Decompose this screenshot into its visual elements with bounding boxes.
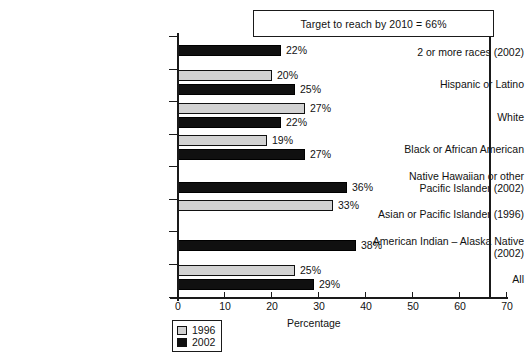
category-label-line: All [360,274,524,286]
bar-chart: Target to reach by 2010 = 66% 2 or more … [0,0,532,361]
category-label-line: Pacific Islander (2002) [360,183,524,195]
bar-value-label: 22% [286,117,307,128]
y-axis-tick [169,166,177,167]
category-label-line: American Indian – Alaska Native [360,236,524,248]
bar-2002-black-or-african-american [178,149,305,160]
x-axis-tick-label: 30 [304,300,334,312]
bar-value-label: 33% [338,200,359,211]
bar-value-label: 20% [277,70,298,81]
x-axis-tick-label: 40 [351,300,381,312]
bar-value-label: 38% [361,240,382,251]
x-axis-tick [177,292,178,298]
y-axis-tick [169,101,177,102]
bar-value-label: 27% [310,149,331,160]
legend-item-1996: 1996 [177,324,215,336]
x-axis-line [170,297,508,299]
x-axis-tick-label: 0 [163,300,193,312]
category-label-white: White [360,112,532,124]
chart-legend: 1996 2002 [172,320,222,352]
category-label-2-or-more-races: 2 or more races (2002) [360,47,532,59]
target-reference-line [489,35,491,298]
legend-swatch-icon-1996 [177,326,187,335]
bar-value-label: 25% [300,84,321,95]
x-axis-tick [224,292,225,298]
y-axis-tick [169,199,177,200]
x-axis-tick-label: 50 [398,300,428,312]
x-axis-tick-label: 10 [210,300,240,312]
bar-2002-all [178,279,314,290]
y-axis-tick [169,36,177,37]
bar-value-label: 29% [319,279,340,290]
bar-value-label: 36% [352,182,373,193]
bar-1996-all [178,265,295,276]
bar-2002-hispanic-or-latino [178,84,295,95]
x-axis-title: Percentage [287,317,341,329]
category-label-line: Black or African American [360,144,524,156]
bar-value-label: 27% [310,103,331,114]
category-label-all: All [360,274,532,286]
bar-1996-white [178,103,305,114]
x-axis-tick-label: 20 [257,300,287,312]
category-label-line: Asian or Pacific Islander (1996) [360,209,524,221]
bar-1996-hispanic-or-latino [178,70,272,81]
bar-2002-american-indian-alaska-native [178,240,356,251]
bar-2002-2-or-more-races [178,45,281,56]
target-callout-box: Target to reach by 2010 = 66% [253,10,494,37]
x-axis-tick-label: 60 [445,300,475,312]
target-callout-text: Target to reach by 2010 = 66% [300,18,446,30]
category-label-line: 2 or more races (2002) [360,47,524,59]
category-label-line: (2002) [360,248,524,260]
x-axis-tick [318,292,319,298]
y-axis-tick [169,69,177,70]
category-label-line: Native Hawaiian or other [360,171,524,183]
x-axis-tick [271,292,272,298]
bar-2002-native-hawaiian-or-other-pacific-islander [178,182,347,193]
x-axis-tick [365,292,366,298]
x-axis-tick [459,292,460,298]
x-axis-tick [506,292,507,298]
y-axis-line [177,33,179,301]
category-label-line: Hispanic or Latino [360,79,524,91]
y-axis-tick [169,134,177,135]
legend-label-2002: 2002 [192,336,215,348]
bar-1996-asian-or-pacific-islander [178,200,333,211]
y-axis-tick [169,264,177,265]
legend-label-1996: 1996 [192,324,215,336]
y-axis-tick [169,231,177,232]
y-axis-tick [169,297,177,298]
legend-swatch-icon-2002 [177,338,187,347]
bar-value-label: 22% [286,45,307,56]
category-label-black-or-african-american: Black or African American [360,144,532,156]
category-label-line: White [360,112,524,124]
category-label-hispanic-or-latino: Hispanic or Latino [360,79,532,91]
bar-1996-black-or-african-american [178,135,267,146]
bar-value-label: 25% [300,265,321,276]
category-label-native-hawaiian-or-other-pacific-islander: Native Hawaiian or other Pacific Islande… [360,171,532,194]
bar-2002-white [178,117,281,128]
legend-item-2002: 2002 [177,336,215,348]
x-axis-tick-label: 70 [492,300,522,312]
x-axis-tick [412,292,413,298]
category-label-american-indian-alaska-native: American Indian – Alaska Native (2002) [360,236,532,259]
bar-value-label: 19% [272,135,293,146]
category-label-asian-or-pacific-islander: Asian or Pacific Islander (1996) [360,209,532,221]
